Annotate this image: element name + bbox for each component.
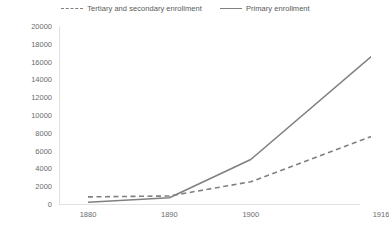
series-line-tertiary-and-secondary-enrollment: [88, 133, 371, 197]
x-axis-tick-label: 1916: [373, 210, 389, 219]
series-line-primary-enrollment: [88, 48, 371, 202]
